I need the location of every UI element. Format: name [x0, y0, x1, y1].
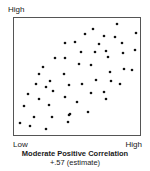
data-point: [103, 91, 106, 94]
data-point: [105, 50, 108, 53]
data-point: [38, 73, 41, 76]
data-point: [76, 101, 79, 104]
data-point: [29, 125, 32, 128]
chart-subtitle: +.57 (estimate): [0, 158, 150, 168]
data-point: [135, 32, 138, 35]
data-point: [94, 51, 97, 54]
data-point: [64, 96, 67, 99]
data-point: [80, 51, 83, 54]
data-point: [78, 63, 81, 66]
data-point: [19, 122, 22, 125]
data-point: [23, 105, 26, 108]
data-point: [67, 121, 70, 124]
data-point: [45, 128, 48, 131]
data-point: [116, 23, 119, 26]
data-point: [52, 90, 55, 93]
data-point: [92, 28, 95, 31]
data-point: [105, 98, 108, 101]
data-point: [45, 86, 48, 89]
data-point: [103, 35, 106, 38]
data-point: [90, 64, 93, 67]
data-point: [131, 69, 134, 72]
data-point: [95, 79, 98, 82]
data-point: [54, 57, 57, 60]
data-point: [81, 83, 84, 86]
data-point: [109, 71, 112, 74]
data-point: [38, 98, 41, 101]
data-point: [48, 104, 51, 107]
data-point: [84, 33, 87, 36]
data-point: [27, 93, 30, 96]
data-point: [122, 52, 125, 55]
data-point: [119, 83, 122, 86]
data-point: [123, 68, 126, 71]
data-point: [68, 84, 71, 87]
data-point: [107, 56, 110, 59]
data-point: [33, 116, 36, 119]
scatter-points: [14, 18, 140, 135]
data-point: [134, 49, 137, 52]
data-point: [35, 83, 38, 86]
y-axis-high-label: High: [8, 5, 24, 15]
data-point: [42, 66, 45, 69]
data-point: [64, 57, 67, 60]
plot-area: [13, 17, 141, 136]
data-point: [121, 42, 124, 45]
data-point: [51, 116, 54, 119]
data-point: [68, 114, 71, 117]
data-point: [110, 80, 113, 83]
data-point: [63, 73, 66, 76]
data-point: [64, 42, 67, 45]
data-point: [98, 43, 101, 46]
data-point: [49, 80, 52, 83]
data-point: [87, 111, 90, 114]
data-point: [114, 36, 117, 39]
data-point: [74, 41, 77, 44]
data-point: [90, 92, 93, 95]
